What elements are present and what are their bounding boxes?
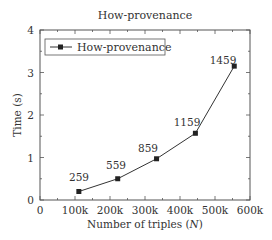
chart-title: How-provenance [98,9,192,22]
x-tick-labels: 0 100k 200k 300k 400k 500k 600k [37,204,264,216]
point-labels: 259 559 859 1159 1459 [69,54,236,183]
x-tick-label: 0 [37,204,44,216]
data-point-marker [193,131,198,136]
point-label: 559 [106,159,126,171]
x-tick-label: 500k [202,204,229,216]
series-line [79,66,234,191]
y-tick-label: 2 [27,109,34,121]
square-marker-icon [58,45,63,50]
y-tick-label: 1 [27,152,34,164]
y-tick-label: 0 [27,194,34,206]
data-point-marker [115,176,120,181]
point-label: 859 [138,142,158,154]
chart-svg: How-provenance 0 100k 200k 300k 400k 500… [0,0,272,240]
x-tick-label: 400k [167,204,194,216]
x-tick-label: 300k [132,204,159,216]
legend-label: How-provenance [77,41,171,54]
data-point-marker [154,156,159,161]
y-tick-labels: 0 1 2 3 4 [27,24,34,206]
point-label: 1159 [174,116,201,128]
series-how-provenance [76,64,236,194]
x-axis-label: Number of triples (N) [87,218,203,230]
y-tick-label: 4 [27,24,34,36]
y-tick-label: 3 [27,67,34,79]
legend: How-provenance [45,39,171,55]
x-tick-label: 600k [237,204,264,216]
point-label: 259 [69,171,89,183]
data-point-marker [76,189,81,194]
y-axis-label: Time (s) [11,93,23,136]
x-tick-label: 200k [97,204,124,216]
x-tick-label: 100k [62,204,89,216]
point-label: 1459 [210,54,237,66]
